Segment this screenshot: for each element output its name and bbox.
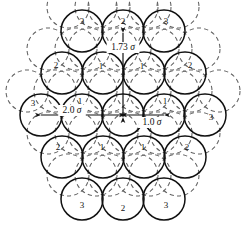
packing-diagram: 323211231132112323 1.73 σ2.0 σ1.0 σ: [0, 0, 246, 232]
shell-label: 1: [141, 142, 146, 152]
shell-label: 3: [31, 98, 36, 108]
shell-label: 2: [54, 60, 59, 70]
sphere: [143, 178, 185, 220]
sphere: [102, 178, 144, 220]
shell-label: 2: [56, 142, 61, 152]
shell-label: 3: [164, 16, 169, 26]
shell-label: 3: [80, 16, 85, 26]
shell-label: 2: [188, 60, 193, 70]
shell-label: 1: [140, 61, 145, 71]
figure-canvas: 323211231132112323 1.73 σ2.0 σ1.0 σ: [0, 0, 246, 232]
shell-label: 1: [99, 61, 104, 71]
shell-label: 2: [185, 142, 190, 152]
shell-label: 2: [121, 16, 126, 26]
shell-label: 1: [100, 142, 105, 152]
sphere: [41, 52, 83, 94]
sphere: [41, 136, 83, 178]
shell-label: 3: [80, 200, 85, 210]
shell-label: 2: [121, 203, 126, 213]
sphere: [82, 52, 124, 94]
sphere: [61, 178, 103, 220]
dimension-label: 2.0 σ: [63, 105, 82, 115]
shell-label: 1: [163, 96, 168, 106]
sphere: [184, 94, 226, 136]
shell-label: 3: [209, 112, 214, 122]
sphere: [164, 52, 206, 94]
dimension-label: 1.73 σ: [111, 42, 135, 52]
dimension-label: 1.0 σ: [143, 117, 162, 127]
shell-label: 3: [164, 200, 169, 210]
sphere: [123, 52, 165, 94]
